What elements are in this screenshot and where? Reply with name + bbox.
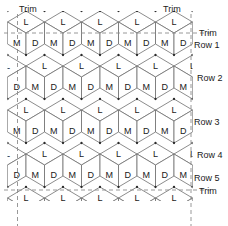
patch-label-light: L	[171, 105, 176, 115]
patch-label-medium: M	[32, 82, 40, 92]
patch-label-medium: M	[0, 170, 2, 180]
patch-label-dark: D	[51, 170, 58, 180]
patch-label-dark: D	[51, 0, 58, 4]
patch-label-light: L	[79, 149, 84, 159]
patch-label-light: L	[153, 149, 158, 159]
patch-label-medium: M	[87, 214, 95, 224]
patch-label-dark: D	[32, 38, 39, 48]
patch-label-medium: M	[198, 214, 206, 224]
patch-label-dark: D	[69, 38, 76, 48]
label-row-5: Row 5	[194, 173, 220, 183]
patch-label-medium: M	[106, 170, 114, 180]
patch-dark	[211, 198, 228, 226]
patch-label-light: L	[134, 105, 139, 115]
label-row-3: Row 3	[194, 117, 220, 127]
grid-vertex	[43, 54, 45, 56]
quilt-diagram-screenshot: LMDLMDLMDLMDLMDLMDLMDLMDLMDLMDLMDLMDLMDL…	[0, 0, 228, 226]
patch-dark	[0, 110, 8, 143]
grid-vertex	[25, 142, 27, 144]
tumbling-blocks-pattern: LMDLMDLMDLMDLMDLMDLMDLMDLMDLMDLMDLMDLMDL…	[0, 0, 228, 226]
patch-label-light: L	[116, 61, 121, 71]
grid-vertex	[99, 54, 101, 56]
patch-medium	[63, 0, 82, 11]
grid-vertex	[173, 186, 175, 188]
grid-vertex	[6, 98, 8, 100]
patch-dark	[211, 22, 228, 55]
patch-label-light: L	[60, 193, 65, 203]
grid-vertex	[117, 142, 119, 144]
patch-label-light: L	[116, 149, 121, 159]
grid-vertex	[136, 186, 138, 188]
patch-label-medium: M	[87, 38, 95, 48]
patch-label-medium: M	[50, 214, 58, 224]
grid-vertex	[191, 142, 193, 144]
grid-vertex	[210, 98, 212, 100]
patch-label-dark: D	[88, 0, 95, 4]
patch-dark	[0, 198, 8, 226]
patch-label-medium: M	[198, 126, 206, 136]
patch-label-light: L	[171, 17, 176, 27]
patch-label-medium: M	[69, 170, 77, 180]
patch-dark	[193, 0, 212, 11]
patch-label-light: L	[60, 105, 65, 115]
patch-medium	[137, 0, 156, 11]
patch-label-medium: M	[217, 0, 225, 4]
patch-label-light: L	[60, 17, 65, 27]
patch-label-medium: M	[143, 82, 151, 92]
patch-label-light: L	[79, 61, 84, 71]
patch-label-dark: D	[69, 214, 76, 224]
patch-label-dark: D	[0, 38, 2, 48]
patch-label-dark: D	[88, 170, 95, 180]
patch-medium	[82, 198, 101, 226]
patch-label-dark: D	[14, 170, 21, 180]
grid-vertex	[80, 142, 82, 144]
patch-dark	[100, 198, 119, 226]
patch-label-light: L	[42, 149, 47, 159]
patch-label-light: L	[97, 105, 102, 115]
patch-label-light: L	[134, 17, 139, 27]
patch-label-dark: D	[162, 82, 169, 92]
patch-dark	[0, 22, 8, 55]
grid-vertex	[43, 10, 45, 12]
patch-label-medium: M	[0, 0, 2, 4]
label-row-2: Row 2	[197, 73, 223, 83]
patch-light	[0, 11, 8, 33]
patch-label-medium: M	[69, 82, 77, 92]
patch-medium	[211, 0, 228, 11]
patch-label-dark: D	[32, 214, 39, 224]
grid-vertex	[43, 142, 45, 144]
grid-vertex	[154, 98, 156, 100]
patch-light	[0, 99, 8, 121]
patch-label-light: L	[97, 17, 102, 27]
patch-label-medium: M	[69, 0, 77, 4]
patch-dark	[45, 0, 64, 11]
patch-label-medium: M	[161, 126, 169, 136]
patch-label-medium: M	[106, 0, 114, 4]
grid-vertex	[6, 186, 8, 188]
patch-dark	[82, 0, 101, 11]
grid-vertex	[6, 142, 8, 144]
patch-label-medium: M	[106, 82, 114, 92]
grid-vertex	[117, 186, 119, 188]
patch-medium	[193, 22, 212, 55]
patch-medium	[156, 198, 175, 226]
grid-vertex	[80, 10, 82, 12]
patch-label-dark: D	[125, 82, 132, 92]
grid-vertex	[173, 54, 175, 56]
patch-dark	[63, 198, 82, 226]
patch-label-light: L	[208, 17, 213, 27]
patch-label-medium: M	[87, 126, 95, 136]
patch-label-medium: M	[124, 214, 132, 224]
patch-label-light: L	[5, 61, 10, 71]
patch-medium	[45, 198, 64, 226]
grid-vertex	[25, 98, 27, 100]
patch-label-light: L	[227, 149, 228, 159]
grid-vertex	[136, 98, 138, 100]
patch-label-medium: M	[143, 170, 151, 180]
grid-vertex	[191, 54, 193, 56]
patch-label-dark: D	[217, 214, 224, 224]
patch-label-dark: D	[180, 126, 187, 136]
patch-label-medium: M	[161, 214, 169, 224]
grid-vertex	[136, 54, 138, 56]
grid-vertex	[99, 10, 101, 12]
